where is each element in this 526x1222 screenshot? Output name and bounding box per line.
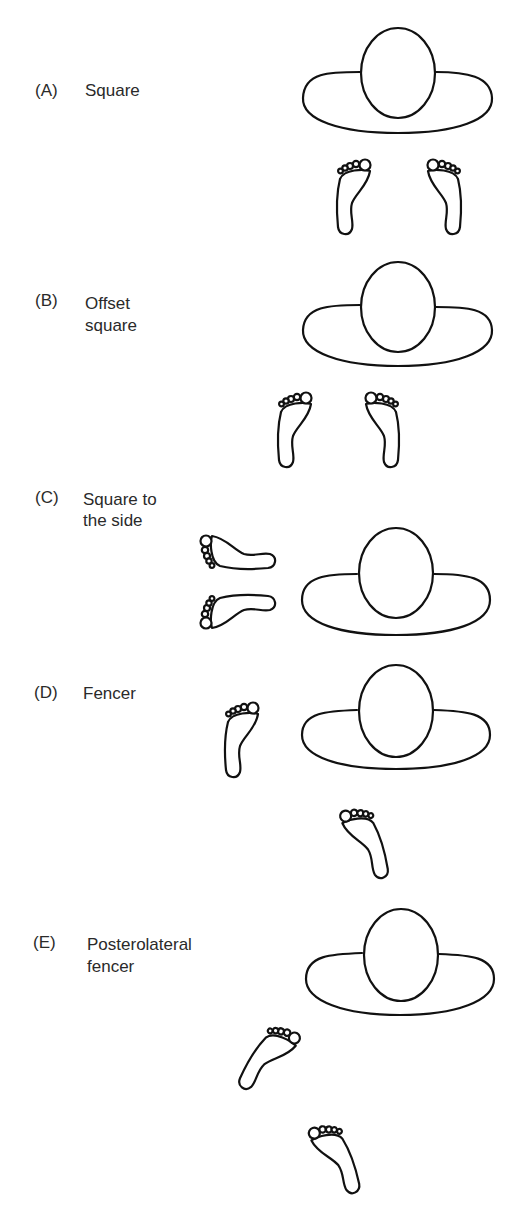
- panel-a-body: [303, 28, 492, 133]
- panel-c-foot-top: [201, 536, 276, 569]
- panel-a-foot-left: [337, 160, 370, 235]
- panel-c-foot-bottom: [201, 595, 276, 628]
- panel-letter: (A): [35, 80, 58, 101]
- panel-a-foot-right: [428, 160, 461, 235]
- panel-b-body: [303, 262, 492, 366]
- panel-letter: (E): [33, 932, 56, 953]
- panel-title-line2: fencer: [87, 956, 134, 977]
- stance-diagram: [0, 0, 526, 1222]
- panel-d-body: [302, 665, 490, 769]
- panel-title: Square to: [83, 489, 157, 510]
- panel-letter: (C): [35, 487, 59, 508]
- panel-d-foot-front: [225, 703, 258, 778]
- panel-e-body: [306, 909, 494, 1015]
- panel-title: Square: [85, 80, 140, 101]
- panel-letter: (D): [34, 682, 58, 703]
- panel-title: Posterolateral: [87, 934, 192, 955]
- panel-title: Offset: [85, 293, 130, 314]
- panel-d-foot-rear: [339, 804, 391, 885]
- panel-e-foot-front: [236, 1019, 302, 1100]
- panel-title: Fencer: [83, 683, 136, 704]
- panel-b-foot-left: [278, 393, 311, 468]
- panel-b-foot-right: [366, 393, 399, 468]
- panel-e-foot-rear: [307, 1119, 362, 1200]
- panel-c-body: [302, 528, 490, 635]
- panel-letter: (B): [35, 290, 58, 311]
- panel-title-line2: square: [85, 315, 137, 336]
- panel-title-line2: the side: [83, 510, 143, 531]
